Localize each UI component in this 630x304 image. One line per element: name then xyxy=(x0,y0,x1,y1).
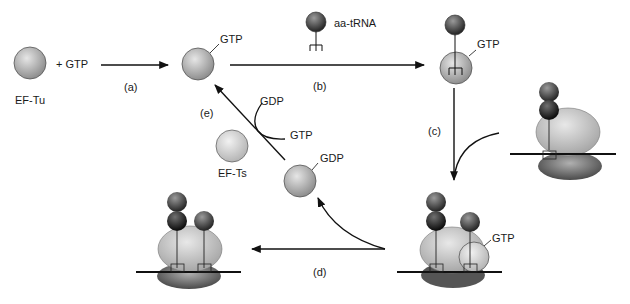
ternary-complex xyxy=(440,15,476,84)
ef-tu-protein xyxy=(14,47,46,79)
step-b-label: (b) xyxy=(313,80,326,92)
gdp-label-2: GDP xyxy=(260,95,284,107)
gtp-label-4: GTP xyxy=(290,129,313,141)
ef-tu-gdp-complex xyxy=(284,165,316,197)
gtp-label-3: GTP xyxy=(492,232,515,244)
ribosome-a-site-filled xyxy=(136,192,241,289)
arrow-step-c-branch xyxy=(455,133,499,172)
gdp-gtp-exchange-curve xyxy=(255,103,285,139)
step-a-label: (a) xyxy=(124,81,137,93)
step-c-label: (c) xyxy=(428,125,441,137)
gtp-label-2: GTP xyxy=(477,38,500,50)
step-d-label: (d) xyxy=(313,266,326,278)
ribosome-p-site-occupied xyxy=(510,82,616,180)
plus-gtp-label: + GTP xyxy=(56,58,88,70)
ef-ts-protein xyxy=(216,130,248,162)
gtp-pointer xyxy=(210,44,219,53)
aa-trna-label: aa-tRNA xyxy=(334,17,377,29)
elongation-cycle-diagram: EF-Tu + GTP (a) GTP aa-tRNA (b) GTP (c) xyxy=(0,0,630,304)
ef-tu-gtp-complex xyxy=(182,48,214,80)
ef-tu-label: EF-Tu xyxy=(15,94,45,106)
gdp-pointer xyxy=(312,163,318,170)
gdp-label-1: GDP xyxy=(320,152,344,164)
ef-ts-label: EF-Ts xyxy=(218,167,247,179)
arrow-ef-tu-gdp-release xyxy=(318,198,385,249)
aa-trna-icon xyxy=(306,12,326,51)
ribosome-a-site-ternary xyxy=(397,192,502,288)
step-e-label: (e) xyxy=(200,107,213,119)
gtp-label-1: GTP xyxy=(220,33,243,45)
